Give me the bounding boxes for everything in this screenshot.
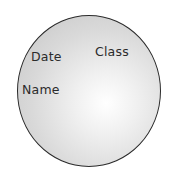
date-label: Date — [31, 49, 62, 64]
class-label: Class — [95, 44, 129, 59]
name-label: Name — [22, 82, 60, 97]
